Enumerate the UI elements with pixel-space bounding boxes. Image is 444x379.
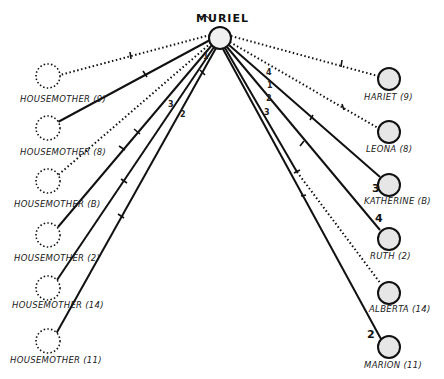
center-node-muriel <box>209 27 231 49</box>
node-number-ruth: 4 <box>375 212 383 225</box>
node-housemother-2 <box>36 223 60 247</box>
node-hariet <box>378 68 400 90</box>
edge-muriel-alberta-solid <box>225 48 297 172</box>
edge-muriel-housemother-11 <box>56 48 216 334</box>
edge-muriel-housemother-8 <box>58 40 210 122</box>
edge-numbers: 1 3 2 4 1 2 3 <box>168 52 273 119</box>
edge-muriel-alberta-dotted <box>297 172 381 284</box>
edge-number: 1 <box>267 81 273 90</box>
center-node-title: MURIEL <box>196 12 249 25</box>
left-edges <box>56 35 216 334</box>
edge-muriel-katherine <box>229 45 380 177</box>
label-ruth: RUTH (2) <box>370 251 411 261</box>
label-housemother-14: HOUSEMOTHER (14) <box>12 300 104 310</box>
node-housemother-B <box>36 169 60 193</box>
edge-muriel-ruth <box>227 47 380 230</box>
label-alberta: ALBERTA (14) <box>368 304 431 314</box>
right-edges <box>223 36 381 339</box>
edge-muriel-housemother-9 <box>60 35 210 75</box>
node-housemother-9 <box>36 64 60 88</box>
edge-number: 1 <box>203 52 209 61</box>
edge-muriel-housemother-14 <box>57 47 214 280</box>
sociogram-diagram: MURIEL <box>0 0 444 379</box>
edge-number: 3 <box>168 100 174 109</box>
node-number-marion: 2 <box>367 328 375 341</box>
edge-arrow-marks <box>118 52 344 218</box>
label-leona: LEONA (8) <box>366 144 412 154</box>
edge-muriel-marion <box>223 49 381 339</box>
node-marion <box>378 336 400 358</box>
node-katherine <box>378 174 400 196</box>
node-housemother-11 <box>36 329 60 353</box>
edge-number: 4 <box>266 68 272 77</box>
node-leona <box>378 121 400 143</box>
edge-number: 3 <box>264 108 270 117</box>
label-marion: MARION (11) <box>364 360 422 370</box>
node-housemother-8 <box>36 116 60 140</box>
label-hariet: HARIET (9) <box>364 92 413 102</box>
label-housemother-B: HOUSEMOTHER (B) <box>14 199 101 209</box>
label-housemother-8: HOUSEMOTHER (8) <box>20 147 106 157</box>
edge-number: 2 <box>180 110 186 119</box>
edge-number: 2 <box>266 94 272 103</box>
node-number-katherine: 3 <box>372 182 380 195</box>
node-alberta <box>378 282 400 304</box>
edge-muriel-leona <box>230 42 378 128</box>
label-housemother-2: HOUSEMOTHER (2) <box>14 253 100 263</box>
node-ruth <box>378 228 400 250</box>
label-katherine: KATHERINE (B) <box>364 196 431 206</box>
edge-muriel-hariet <box>231 36 378 76</box>
node-housemother-14 <box>36 276 60 300</box>
label-housemother-11: HOUSEMOTHER (11) <box>10 355 102 365</box>
label-housemother-9: HOUSEMOTHER (9) <box>20 94 106 104</box>
